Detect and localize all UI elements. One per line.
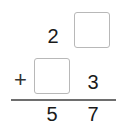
row1-tens-digit: 2 [46, 26, 60, 46]
plus-sign: + [14, 70, 27, 90]
row1-ones-answer-box[interactable] [74, 12, 110, 48]
row2-ones-digit: 3 [86, 72, 100, 92]
result-tens-digit: 5 [45, 104, 59, 124]
sum-line [11, 99, 116, 101]
result-ones-digit: 7 [86, 104, 100, 124]
row2-tens-answer-box[interactable] [34, 58, 70, 94]
